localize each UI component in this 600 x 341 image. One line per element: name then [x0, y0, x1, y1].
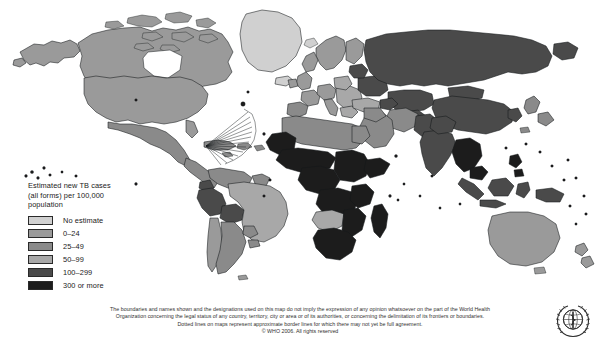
legend-item-25-49[interactable]: 25–49	[28, 240, 178, 253]
legend-swatch-no-estimate	[28, 216, 53, 225]
disclaimer-line-3: Dotted lines on maps represent approxima…	[0, 321, 600, 328]
legend-label-100-299: 100–299	[63, 268, 92, 277]
map-legend: Estimated new TB cases (all forms) per 1…	[28, 181, 178, 292]
legend-item-100-299[interactable]: 100–299	[28, 266, 178, 279]
legend-title: Estimated new TB cases (all forms) per 1…	[28, 181, 178, 210]
legend-item-50-99[interactable]: 50–99	[28, 253, 178, 266]
legend-swatch-0-24	[28, 229, 53, 238]
copyright-notice: © WHO 2006. All rights reserved	[0, 328, 600, 335]
legend-label-25-49: 25–49	[63, 242, 84, 251]
tb-incidence-map-page: .c { stroke:#15181a; stroke-width:.55; s…	[0, 0, 600, 341]
legend-swatch-50-99	[28, 255, 53, 264]
disclaimer-line-1: The boundaries and names shown and the d…	[0, 306, 600, 313]
legend-label-300-or-more: 300 or more	[63, 281, 104, 290]
legend-swatch-100-299	[28, 268, 53, 277]
legend-item-300-or-more[interactable]: 300 or more	[28, 279, 178, 292]
legend-label-50-99: 50–99	[63, 255, 84, 264]
who-emblem-icon	[554, 303, 592, 339]
map-footer: The boundaries and names shown and the d…	[0, 306, 600, 335]
legend-swatch-25-49	[28, 242, 53, 251]
legend-label-no-estimate: No estimate	[63, 216, 103, 225]
legend-items: No estimate 0–24 25–49 50–99 100–299 300	[28, 214, 178, 292]
legend-item-no-estimate[interactable]: No estimate	[28, 214, 178, 227]
legend-label-0-24: 0–24	[63, 229, 80, 238]
who-emblem	[554, 303, 592, 339]
legend-swatch-300-or-more	[28, 281, 53, 290]
disclaimer-line-2: Organization concerning the legal status…	[0, 313, 600, 320]
legend-item-0-24[interactable]: 0–24	[28, 227, 178, 240]
